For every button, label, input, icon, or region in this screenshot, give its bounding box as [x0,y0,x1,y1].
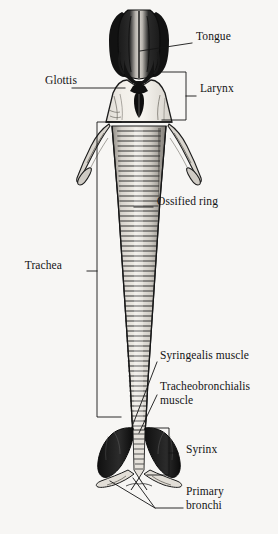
label-syringealis-muscle: Syringealis muscle [160,349,249,363]
label-ossified-ring: Ossified ring [157,195,218,209]
label-larynx: Larynx [200,82,234,96]
label-tracheobronchialis-muscle: Tracheobronchialis muscle [160,380,250,407]
label-trachea: Trachea [0,259,62,273]
label-glottis: Glottis [0,74,77,88]
label-primary-bronchi: Primary bronchi [186,485,224,512]
label-syrinx: Syrinx [186,443,217,457]
label-tongue: Tongue [196,30,231,44]
syrinx-structure [98,428,181,478]
anatomical-figure: TongueGlottisLarynxOssified ringTracheaS… [0,0,278,534]
leader-primary-bronchi-b [133,478,155,508]
larynx-structure [106,80,172,122]
